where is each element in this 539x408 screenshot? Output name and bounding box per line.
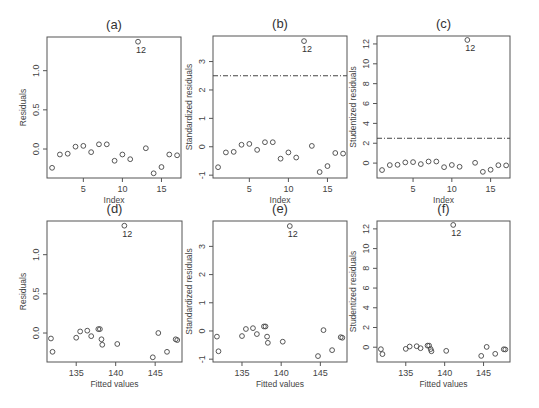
y-axis-label: Standardized residuals <box>184 64 194 150</box>
data-point <box>418 346 423 351</box>
outlier-label: 12 <box>136 45 146 55</box>
x-tick-label: 10 <box>283 184 293 194</box>
x-axis-label: Fitted values <box>256 379 304 389</box>
y-tick-label: 3 <box>197 244 207 249</box>
x-tick-label: 135 <box>69 368 84 378</box>
y-tick-label: 0 <box>361 345 371 350</box>
data-point <box>434 159 439 164</box>
data-point <box>287 224 292 229</box>
data-point <box>89 334 94 339</box>
y-axis-label: Studentized residuals <box>348 251 358 332</box>
data-point <box>387 163 392 168</box>
data-point <box>150 355 155 360</box>
y-tick-label: 2 <box>197 272 207 277</box>
data-point <box>496 163 501 168</box>
panel-b: (b)51015-10123IndexStandardized residual… <box>184 16 347 205</box>
y-tick-label: 0 <box>361 161 371 166</box>
data-point <box>122 223 127 228</box>
data-point <box>484 345 489 350</box>
y-tick-label: -1 <box>197 355 207 363</box>
x-tick-label: 15 <box>486 184 496 194</box>
data-point <box>165 349 170 354</box>
y-axis-label: Standardized residuals <box>184 248 194 334</box>
x-tick-label: 5 <box>247 184 252 194</box>
data-point <box>216 165 221 170</box>
data-point <box>81 143 86 148</box>
panel-c: (c)51015024681012IndexStudentized residu… <box>348 16 510 205</box>
data-point <box>231 149 236 154</box>
panel-title: (a) <box>106 17 122 32</box>
data-point <box>444 348 449 353</box>
data-point <box>473 160 478 165</box>
data-point <box>49 336 54 341</box>
x-tick-label: 15 <box>156 184 166 194</box>
outlier-label: 12 <box>122 229 132 239</box>
panel-title: (e) <box>272 201 288 216</box>
data-point <box>151 171 156 176</box>
outlier-label: 12 <box>302 44 312 54</box>
data-point <box>380 352 385 357</box>
data-point <box>216 349 221 354</box>
data-point <box>341 151 346 156</box>
y-tick-label: 0.5 <box>31 104 41 117</box>
data-point <box>488 167 493 172</box>
y-tick-label: 1 <box>197 300 207 305</box>
data-point <box>286 150 291 155</box>
data-point <box>265 334 270 339</box>
data-point <box>247 142 252 147</box>
y-tick-label: 4 <box>361 305 371 310</box>
data-point <box>265 340 270 345</box>
data-point <box>479 353 484 358</box>
data-point <box>251 326 256 331</box>
data-point <box>215 334 220 339</box>
data-point <box>175 338 180 343</box>
data-point <box>57 152 62 157</box>
x-tick-label: 135 <box>398 368 413 378</box>
plot-frame <box>213 221 347 362</box>
panel-title: (c) <box>436 16 451 31</box>
data-point <box>325 164 330 169</box>
data-point <box>65 151 70 156</box>
outlier-label: 12 <box>451 228 461 238</box>
data-point <box>309 144 314 149</box>
y-tick-label: 10 <box>361 59 371 69</box>
y-tick-label: 2 <box>361 141 371 146</box>
x-tick-label: 140 <box>437 368 452 378</box>
y-tick-label: 0.0 <box>31 327 41 340</box>
y-tick-label: 12 <box>361 39 371 49</box>
panel-f: (f)135140145024681012Fitted valuesStuden… <box>348 201 510 389</box>
x-axis-label: Fitted values <box>90 379 138 389</box>
data-point <box>97 142 102 147</box>
data-point <box>167 152 172 157</box>
y-tick-label: 6 <box>361 101 371 106</box>
data-point <box>426 159 431 164</box>
data-point <box>270 140 275 145</box>
data-point <box>407 344 412 349</box>
data-point <box>223 150 228 155</box>
data-point <box>115 342 120 347</box>
data-point <box>378 347 383 352</box>
y-tick-label: 0 <box>197 328 207 333</box>
y-tick-label: 1.0 <box>31 248 41 261</box>
data-point <box>465 38 470 43</box>
y-tick-label: 2 <box>361 325 371 330</box>
data-point <box>411 160 416 165</box>
data-point <box>280 339 285 344</box>
y-tick-label: 1 <box>197 116 207 121</box>
panel-title: (d) <box>107 201 123 216</box>
data-point <box>457 164 462 169</box>
panel-d: (d)1351401450.00.51.0Fitted valuesResidu… <box>18 201 182 389</box>
data-point <box>240 334 245 339</box>
data-point <box>50 165 55 170</box>
y-tick-label: 4 <box>361 121 371 126</box>
data-point <box>85 328 90 333</box>
y-tick-label: 3 <box>197 59 207 64</box>
plot-frame <box>47 37 181 178</box>
data-point <box>78 329 83 334</box>
x-tick-label: 145 <box>148 368 163 378</box>
data-point <box>104 142 109 147</box>
y-tick-label: 8 <box>361 81 371 86</box>
x-tick-label: 140 <box>274 368 289 378</box>
data-point <box>380 168 385 173</box>
data-point <box>100 342 105 347</box>
